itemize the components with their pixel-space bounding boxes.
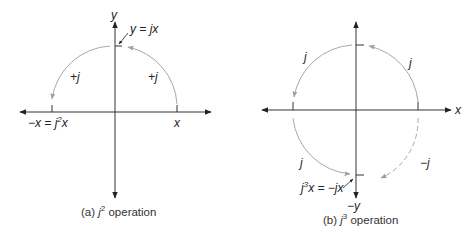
neg-x-label: −x = j2x bbox=[28, 115, 69, 130]
arc-lower-right-neg-j bbox=[381, 118, 418, 178]
phasor-diagrams: y y = jx +j +j x −x = j2x (a) j2 operati… bbox=[0, 0, 471, 240]
caption-b: (b) j3 operation bbox=[323, 212, 398, 226]
x-axis-label: x bbox=[454, 103, 462, 117]
right-arc-label: +j bbox=[148, 70, 158, 84]
bottom-point-label: j3x = −jx bbox=[299, 180, 344, 195]
lower-left-arc-label: j bbox=[298, 156, 303, 170]
upper-left-arc-label: j bbox=[302, 50, 307, 64]
arc-upper-left-j bbox=[294, 45, 352, 97]
pointer-arrow bbox=[119, 33, 128, 44]
left-arc-label: +j bbox=[70, 70, 80, 84]
arc-upper-right-j bbox=[369, 46, 418, 102]
lower-right-arc-label: −j bbox=[420, 156, 430, 170]
arc-left-plus-j bbox=[52, 46, 110, 99]
neg-y-label: −y bbox=[347, 199, 361, 213]
pointer-arrow bbox=[343, 179, 353, 188]
diagram-b: x j j j −j j3x = −jx −y (b) j3 operation bbox=[262, 22, 462, 226]
upper-right-arc-label: j bbox=[407, 56, 412, 70]
y-axis-label: y bbox=[110, 8, 118, 22]
caption-a: (a) j2 operation bbox=[81, 204, 156, 218]
diagram-a: y y = jx +j +j x −x = j2x (a) j2 operati… bbox=[20, 8, 211, 218]
x-axis-label: x bbox=[173, 116, 181, 130]
top-point-label: y = jx bbox=[129, 22, 159, 36]
